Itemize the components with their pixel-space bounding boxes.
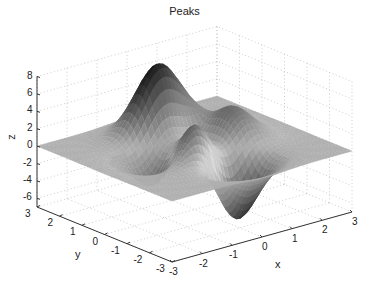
y-tick-label: 1	[70, 227, 76, 237]
z-tick-label: 8	[27, 71, 33, 81]
x-tick-label: 0	[262, 242, 268, 252]
y-tick-label: 0	[93, 237, 99, 247]
y-axis-label: y	[75, 248, 81, 260]
x-tick-label: -1	[229, 250, 238, 260]
z-tick-label: -6	[23, 192, 32, 202]
surface-mesh	[37, 64, 352, 219]
y-tick-label: 3	[25, 209, 31, 219]
surface-plot	[0, 0, 369, 283]
z-tick-label: -4	[23, 175, 32, 185]
z-tick-label: 0	[27, 140, 33, 150]
x-tick-label: 3	[352, 217, 358, 227]
surface-figure: Peaks -6-4-202468-3-2-10123-3-2-10123 z …	[0, 0, 369, 283]
z-tick-label: 2	[27, 123, 33, 133]
chart-title: Peaks	[0, 5, 369, 17]
x-tick-label: 2	[322, 225, 328, 235]
y-tick-label: -1	[111, 246, 120, 256]
y-tick-label: -2	[134, 255, 143, 265]
x-axis-label: x	[275, 258, 281, 270]
y-tick-label: 2	[48, 218, 54, 228]
z-tick-label: 4	[27, 105, 33, 115]
x-tick-label: -2	[199, 259, 208, 269]
x-tick-label: -3	[169, 267, 178, 277]
z-axis-label: z	[5, 134, 17, 140]
y-tick-label: -3	[156, 264, 165, 274]
z-tick-label: 6	[27, 88, 33, 98]
x-tick-label: 1	[292, 234, 298, 244]
z-tick-label: -2	[23, 158, 32, 168]
